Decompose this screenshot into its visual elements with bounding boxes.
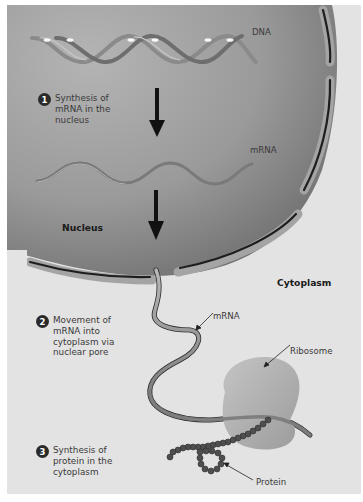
label-nucleus: Nucleus — [62, 222, 103, 233]
label-protein: Protein — [256, 477, 286, 488]
gene-expression-diagram — [7, 5, 361, 494]
step-1: 1 Synthesis of mRNA in the nucleus — [38, 93, 110, 125]
label-dna: DNA — [252, 27, 271, 38]
ribosome — [150, 357, 310, 450]
label-cytoplasm: Cytoplasm — [277, 277, 331, 288]
step-description: Synthesis of mRNA in the nucleus — [55, 93, 110, 125]
step-number-badge: 3 — [36, 445, 49, 458]
label-ribosome: Ribosome — [290, 346, 332, 357]
label-mrna-cytoplasm: mRNA — [213, 311, 240, 322]
step-number-badge: 1 — [38, 93, 51, 106]
diagram-panel: DNA mRNA Nucleus Cytoplasm mRNA Ribosome… — [7, 5, 361, 494]
step-description: Synthesis of protein in the cytoplasm — [53, 445, 112, 477]
label-mrna-nucleus: mRNA — [250, 145, 277, 156]
step-3: 3 Synthesis of protein in the cytoplasm — [36, 445, 112, 477]
step-description: Movement of mRNA into cytoplasm via nucl… — [53, 315, 114, 358]
step-number-badge: 2 — [36, 315, 49, 328]
step-2: 2 Movement of mRNA into cytoplasm via nu… — [36, 315, 114, 358]
